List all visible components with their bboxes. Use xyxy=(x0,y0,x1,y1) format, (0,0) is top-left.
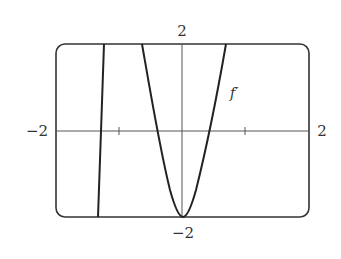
x-max-label: 2 xyxy=(317,122,327,140)
curve-label-f-prime: f′ xyxy=(229,85,239,101)
x-min-label: −2 xyxy=(26,122,48,140)
graph-plot: 2 −2 −2 2 f′ xyxy=(0,0,341,259)
y-max-label: 2 xyxy=(177,22,187,40)
y-min-label: −2 xyxy=(172,224,194,242)
